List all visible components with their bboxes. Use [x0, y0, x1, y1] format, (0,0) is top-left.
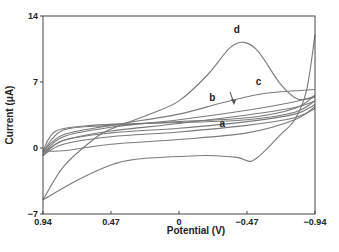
curve-label-b: b	[209, 92, 215, 103]
curve-b-upper	[43, 101, 315, 154]
curve-annotations: dcba	[209, 24, 262, 129]
curves-group	[43, 35, 315, 200]
y-axis-ticks: −70714	[28, 11, 43, 219]
y-tick-label: 0	[33, 143, 38, 153]
x-axis-title: Potential (V)	[167, 225, 225, 236]
curve-b-lower	[43, 96, 315, 154]
x-tick-label: −0.94	[304, 217, 327, 227]
curve-label-c: c	[256, 76, 262, 87]
plot-frame	[43, 16, 315, 214]
cyclic-voltammogram-chart: 0.940.470−0.47−0.94 −70714 dcba Potentia…	[0, 0, 339, 252]
curve-outer-upper	[43, 101, 315, 151]
y-axis-title: Current (μA)	[4, 86, 15, 145]
x-tick-label: 0.47	[102, 217, 120, 227]
x-tick-label: −0.47	[236, 217, 259, 227]
curve-label-d: d	[234, 24, 240, 35]
y-tick-label: 14	[28, 11, 38, 21]
y-tick-label: −7	[28, 209, 38, 219]
curve-c-upper	[43, 90, 315, 152]
curve-label-a: a	[220, 118, 226, 129]
arrow-b-head	[231, 99, 236, 105]
y-tick-label: 7	[33, 77, 38, 87]
